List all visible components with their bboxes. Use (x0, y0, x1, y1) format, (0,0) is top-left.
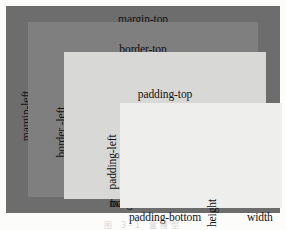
box-model-figure: margin-top margin-left margin-right marg… (0, 0, 286, 230)
label-padding-top: padding-top (138, 89, 192, 101)
border-box-region: border-top border -left border-right bor… (28, 22, 258, 197)
label-padding-left: padding-left (106, 122, 120, 202)
padding-box-region: padding-top padding-left padding-right p… (64, 52, 266, 199)
figure-caption: 图 3-1 盒模型 (0, 219, 286, 230)
margin-box-region: margin-top margin-left margin-right marg… (6, 6, 280, 213)
content-box-region: height width (120, 103, 282, 208)
